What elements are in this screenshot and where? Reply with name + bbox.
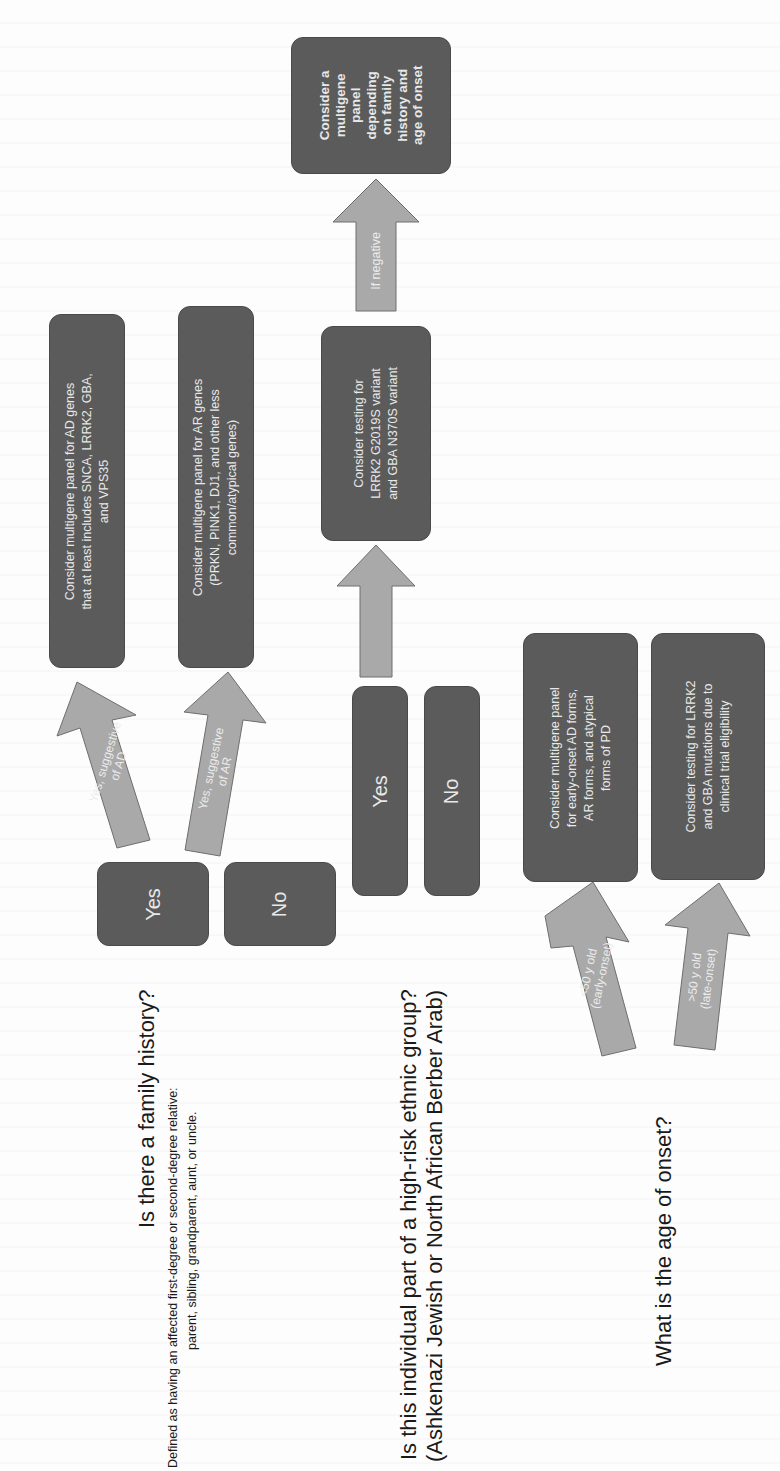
testing-box-line3: and GBA N370S variant — [385, 367, 402, 500]
early-box-line2: for early-onset AD forms, — [564, 687, 581, 829]
ethnic-no-box: No — [424, 686, 480, 896]
panel-box-line3: panel — [348, 66, 364, 146]
family-history-definition-line1: Defined as having an affected first-degr… — [166, 1087, 180, 1468]
ar-box-line3: common/atypical genes) — [225, 378, 242, 596]
panel-box-line6: history and — [394, 66, 410, 146]
ad-multigene-panel-box: Consider multigene panel for AD genes th… — [49, 314, 125, 668]
family-yes-box: Yes — [97, 862, 209, 946]
arrow-if-negative: If negative — [332, 178, 420, 312]
family-yes-label: Yes — [141, 888, 164, 921]
ad-box-line1: Consider multigene panel for AD genes — [62, 373, 79, 609]
arrow-suggestive-ad: Yes, suggestive of AD — [40, 670, 150, 850]
ar-multigene-panel-box: Consider multigene panel for AR genes (P… — [178, 306, 254, 668]
up-arrow-icon — [40, 670, 150, 850]
ethnic-yes-label: Yes — [368, 775, 391, 808]
ad-box-line2: that at least includes SNCA, LRRK2, GBA, — [79, 373, 96, 609]
multigene-panel-depending-box: Consider a multigene panel depending on … — [291, 37, 451, 174]
early-box-line3: AR forms, and atypical — [581, 687, 598, 829]
if-negative-label: If negative — [369, 221, 383, 301]
early-box-line4: forms of PD — [598, 687, 615, 829]
testing-box-line2: LRRK2 G2019S variant — [368, 367, 385, 500]
early-onset-panel-box: Consider multigene panel for early-onset… — [523, 633, 638, 882]
lrrk2-gba-testing-box: Consider testing for LRRK2 G2019S varian… — [321, 326, 431, 541]
early-box-line1: Consider multigene panel — [547, 687, 564, 829]
panel-box-line5: on family — [379, 66, 395, 146]
ar-box-line1: Consider multigene panel for AR genes — [191, 378, 208, 596]
panel-box-line4: depending — [363, 66, 379, 146]
ad-box-line3: and VPS35 — [96, 373, 113, 609]
arrow-late-onset: >50 y old (late-onset) — [665, 882, 750, 1052]
age-onset-question: What is the age of onset? — [651, 1117, 677, 1367]
arrow-yes-to-testing — [336, 544, 416, 678]
panel-box-line2: multigene — [332, 66, 348, 146]
late-box-line1: Consider testing for LRRK2 — [683, 680, 700, 832]
ethnic-no-label: No — [440, 778, 463, 804]
panel-box-line1: Consider a — [317, 66, 333, 146]
ethnic-question-line2: (Ashkenazi Jewish or North African Berbe… — [422, 990, 448, 1462]
late-box-line3: clinical trial eligibility — [717, 680, 734, 832]
late-onset-testing-box: Consider testing for LRRK2 and GBA mutat… — [651, 633, 765, 880]
family-no-box: No — [224, 862, 336, 946]
family-history-definition-line2: parent, sibling, grandparent, aunt, or u… — [185, 1112, 199, 1350]
family-no-label: No — [268, 891, 291, 917]
arrow-suggestive-ar: Yes, suggestive of AR — [160, 668, 270, 858]
ethnic-question-line1: Is this individual part of a high-risk e… — [396, 989, 422, 1460]
testing-box-line1: Consider testing for — [351, 367, 368, 500]
late-box-line2: and GBA mutations due to — [700, 680, 717, 832]
ethnic-yes-box: Yes — [352, 686, 408, 896]
panel-box-line7: age of onset — [410, 66, 426, 146]
up-arrow-icon — [336, 544, 416, 678]
ar-box-line2: (PRKN, PINK1, DJ1, and other less — [208, 378, 225, 596]
arrow-early-onset: <50 y old (early-onset) — [545, 880, 635, 1058]
family-history-question: Is there a family history? — [134, 990, 160, 1228]
